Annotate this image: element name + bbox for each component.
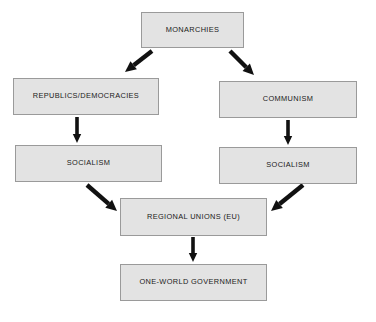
arrow-head — [125, 61, 137, 72]
node-label: REPUBLICS/DEMOCRACIES — [33, 92, 139, 100]
arrow-head — [189, 253, 197, 262]
node-communism: COMMUNISM — [219, 81, 357, 118]
arrow-shaft — [280, 185, 303, 204]
arrow-shaft — [230, 51, 246, 67]
arrow-socialism-left-to-regional — [87, 185, 117, 211]
node-label: MONARCHIES — [166, 26, 220, 34]
arrow-republics-to-socialism-left — [73, 117, 81, 143]
node-label: ONE-WORLD GOVERNMENT — [139, 278, 247, 286]
arrow-head — [271, 200, 283, 211]
arrow-regional-to-one-world — [189, 237, 197, 262]
arrow-socialism-right-to-regional — [271, 185, 303, 211]
arrow-shaft — [87, 185, 109, 204]
arrow-head — [284, 136, 292, 145]
arrow-monarchies-to-republics — [125, 51, 152, 72]
node-one-world: ONE-WORLD GOVERNMENT — [120, 264, 267, 301]
node-label: SOCIALISM — [266, 161, 309, 169]
arrow-shaft — [134, 51, 152, 65]
arrow-head — [105, 200, 117, 211]
flowchart-diagram: MONARCHIESREPUBLICS/DEMOCRACIESCOMMUNISM… — [0, 0, 376, 322]
node-regional-unions: REGIONAL UNIONS (EU) — [120, 198, 267, 236]
node-republics: REPUBLICS/DEMOCRACIES — [13, 78, 159, 115]
node-label: REGIONAL UNIONS (EU) — [147, 213, 240, 221]
arrow-head — [73, 134, 81, 143]
node-socialism-left: SOCIALISM — [15, 145, 162, 182]
arrow-communism-to-socialism-right — [284, 120, 292, 145]
node-monarchies: MONARCHIES — [141, 12, 244, 48]
node-socialism-right: SOCIALISM — [219, 147, 357, 184]
arrow-monarchies-to-communism — [230, 51, 254, 75]
node-label: COMMUNISM — [263, 95, 313, 103]
arrow-head — [243, 64, 254, 75]
node-label: SOCIALISM — [67, 159, 110, 167]
